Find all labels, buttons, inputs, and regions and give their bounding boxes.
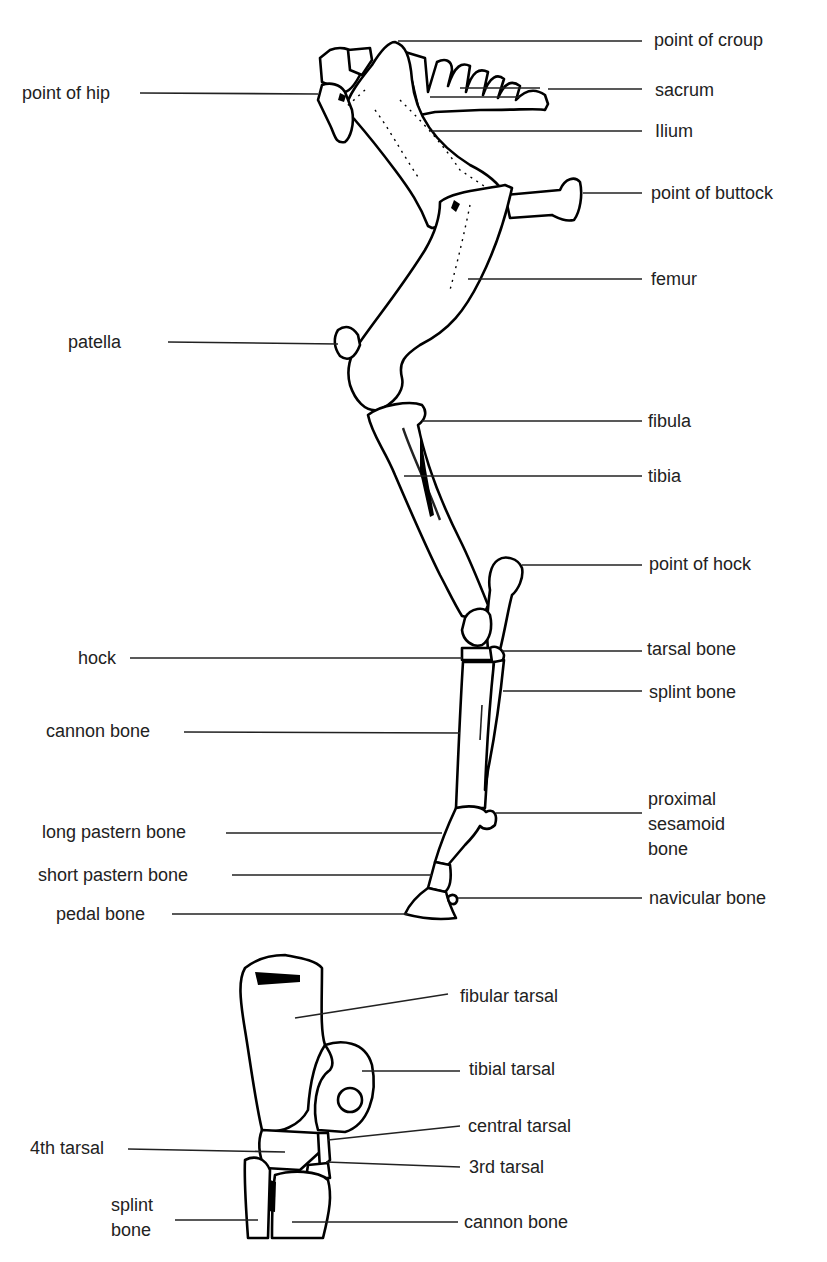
label-ilium: Ilium bbox=[655, 120, 693, 142]
label-long-pastern-bone: long pastern bone bbox=[42, 821, 186, 843]
label-3rd-tarsal: 3rd tarsal bbox=[469, 1156, 544, 1178]
sacrum-shape bbox=[405, 52, 548, 115]
label-tarsal-bone: tarsal bone bbox=[647, 638, 736, 660]
label-cannon-bone: cannon bone bbox=[46, 720, 150, 742]
tibia-shape bbox=[368, 403, 488, 617]
label-femur: femur bbox=[651, 268, 697, 290]
leader-lines bbox=[130, 41, 642, 914]
label-point-of-hock: point of hock bbox=[649, 553, 751, 575]
label-point-of-hip: point of hip bbox=[22, 82, 110, 104]
point-of-buttock-shape bbox=[505, 179, 581, 221]
label-tibia: tibia bbox=[648, 465, 681, 487]
hock-detail-shape bbox=[240, 955, 373, 1238]
label-central-tarsal: central tarsal bbox=[468, 1115, 571, 1137]
label-sacrum: sacrum bbox=[655, 79, 714, 101]
label-hock: hock bbox=[78, 647, 116, 669]
label-pedal-bone: pedal bone bbox=[56, 903, 145, 925]
label-short-pastern-bone: short pastern bone bbox=[38, 864, 188, 886]
label-splint-bone-detail: splint bone bbox=[111, 1193, 153, 1243]
label-proximal-sesamoid-bone: proximal sesamoid bone bbox=[648, 787, 768, 862]
label-fibula: fibula bbox=[648, 410, 691, 432]
label-patella: patella bbox=[68, 331, 121, 353]
label-navicular-bone: navicular bone bbox=[649, 887, 766, 909]
cannon-bone-shape bbox=[456, 660, 504, 808]
label-splint-bone: splint bone bbox=[649, 681, 736, 703]
femur-shape bbox=[335, 185, 512, 410]
pastern-shape bbox=[405, 806, 496, 918]
label-fibular-tarsal: fibular tarsal bbox=[460, 985, 558, 1007]
label-cannon-bone-detail: cannon bone bbox=[464, 1211, 568, 1233]
label-point-of-croup: point of croup bbox=[654, 29, 763, 51]
label-tibial-tarsal: tibial tarsal bbox=[469, 1058, 555, 1080]
label-4th-tarsal: 4th tarsal bbox=[30, 1137, 104, 1159]
label-point-of-buttock: point of buttock bbox=[651, 182, 773, 204]
